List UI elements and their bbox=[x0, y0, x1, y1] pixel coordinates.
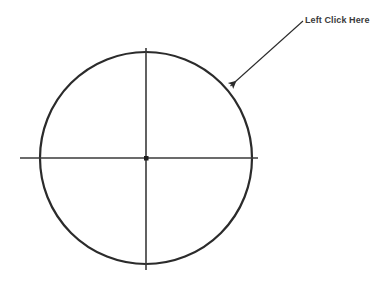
center-dot[interactable] bbox=[144, 156, 149, 161]
figure-canvas: Left Click Here bbox=[0, 0, 389, 288]
left-click-here-label: Left Click Here bbox=[305, 15, 370, 26]
diagram-svg bbox=[0, 0, 389, 288]
callout-arrow bbox=[231, 21, 304, 86]
